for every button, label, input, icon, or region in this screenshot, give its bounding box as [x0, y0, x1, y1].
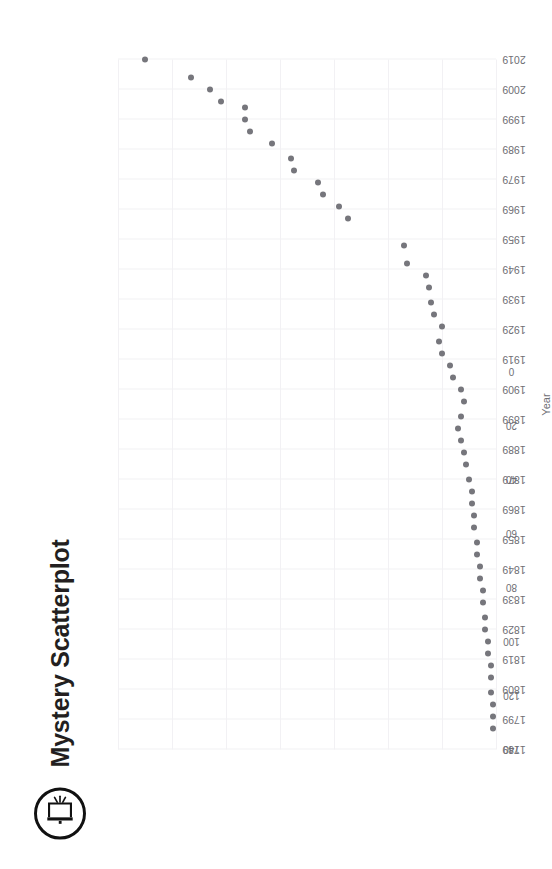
data-point	[423, 272, 429, 278]
year-axis-tick-label: 1859	[502, 533, 525, 545]
gridline-vertical	[118, 418, 496, 419]
data-point	[485, 650, 491, 656]
gridline-vertical	[118, 358, 496, 359]
gridline-vertical	[118, 238, 496, 239]
gridline-vertical	[118, 448, 496, 449]
page-title: Mystery Scatterplot	[46, 539, 75, 767]
data-point	[345, 215, 351, 221]
data-point	[471, 524, 477, 530]
data-point	[488, 689, 494, 695]
data-point	[480, 599, 486, 605]
data-point	[477, 575, 483, 581]
year-axis-tick-label: 1989	[502, 143, 525, 155]
data-point	[482, 626, 488, 632]
gridline-vertical	[118, 118, 496, 119]
year-axis-tick-label: 1999	[502, 113, 525, 125]
data-point	[466, 476, 472, 482]
year-axis-tick-label: 1799	[502, 713, 525, 725]
plot-background	[118, 59, 496, 749]
data-point	[269, 140, 275, 146]
gridline-horizontal	[442, 59, 443, 749]
data-point	[242, 116, 248, 122]
year-axis-tick-label: 1839	[502, 593, 525, 605]
data-point	[482, 614, 488, 620]
year-axis-tick-label: 1899	[502, 413, 525, 425]
data-point	[490, 713, 496, 719]
gridline-horizontal	[496, 59, 497, 749]
data-point	[404, 260, 410, 266]
year-axis-tick-label: 1939	[502, 293, 525, 305]
year-axis-tick-label: 1829	[502, 623, 525, 635]
data-point	[315, 179, 321, 185]
gridline-vertical	[118, 568, 496, 569]
gridline-horizontal	[388, 59, 389, 749]
gridline-vertical	[118, 58, 496, 59]
gridline-vertical	[118, 268, 496, 269]
data-point	[439, 350, 445, 356]
data-point	[291, 167, 297, 173]
data-point	[474, 551, 480, 557]
data-point	[336, 203, 342, 209]
data-point	[458, 437, 464, 443]
data-point	[474, 539, 480, 545]
data-point	[458, 386, 464, 392]
gridline-vertical	[118, 508, 496, 509]
data-point	[242, 104, 248, 110]
data-point	[320, 191, 326, 197]
gridline-vertical	[118, 658, 496, 659]
year-axis-label: Year	[540, 59, 552, 749]
year-axis-tick-label: 1949	[502, 263, 525, 275]
data-point	[401, 242, 407, 248]
data-point	[439, 323, 445, 329]
year-axis-tick-label: 1959	[502, 233, 525, 245]
year-axis-tick-label: 1979	[502, 173, 525, 185]
data-point	[436, 338, 442, 344]
year-axis-tick-label: 1909	[502, 383, 525, 395]
data-point	[469, 488, 475, 494]
data-point	[480, 587, 486, 593]
gridline-vertical	[118, 478, 496, 479]
door-exit-in-circle-icon	[32, 785, 88, 841]
year-axis-tick-label: 1819	[502, 653, 525, 665]
data-point	[463, 461, 469, 467]
gridline-vertical	[118, 598, 496, 599]
data-point	[471, 512, 477, 518]
gridline-vertical	[118, 718, 496, 719]
data-point	[488, 662, 494, 668]
gridline-horizontal	[118, 59, 119, 749]
data-point	[450, 374, 456, 380]
year-axis-tick-label: 1789	[502, 743, 525, 755]
figure-header: Mystery Scatterplot	[0, 0, 120, 869]
scatter-plot-area	[118, 59, 496, 749]
gridline-vertical	[118, 88, 496, 89]
data-point	[188, 74, 194, 80]
data-point	[455, 425, 461, 431]
data-point	[485, 638, 491, 644]
data-point	[490, 701, 496, 707]
data-point	[142, 56, 148, 62]
gridline-vertical	[118, 208, 496, 209]
gridline-vertical	[118, 538, 496, 539]
gridline-vertical	[118, 628, 496, 629]
data-point	[461, 449, 467, 455]
gridline-horizontal	[172, 59, 173, 749]
year-axis-tick-label: 1919	[502, 353, 525, 365]
data-point	[247, 128, 253, 134]
gridline-horizontal	[226, 59, 227, 749]
gridline-vertical	[118, 298, 496, 299]
year-axis-tick-label: 1969	[502, 203, 525, 215]
data-point	[490, 725, 496, 731]
data-point	[428, 299, 434, 305]
gridline-vertical	[118, 748, 496, 749]
gridline-horizontal	[334, 59, 335, 749]
year-axis-tick-label: 1809	[502, 683, 525, 695]
data-point	[447, 362, 453, 368]
year-axis-tick-label: 1869	[502, 503, 525, 515]
gridline-vertical	[118, 688, 496, 689]
gridline-vertical	[118, 178, 496, 179]
data-point	[207, 86, 213, 92]
data-point	[458, 413, 464, 419]
data-point	[218, 98, 224, 104]
data-point	[469, 500, 475, 506]
